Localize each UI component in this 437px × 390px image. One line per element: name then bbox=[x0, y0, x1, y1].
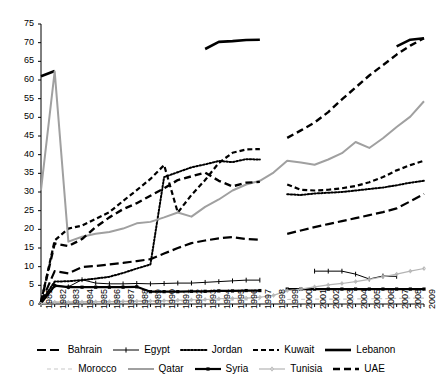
legend-item-egypt[interactable]: Egypt bbox=[112, 345, 170, 355]
legend-item-jordan[interactable]: Jordan bbox=[180, 345, 243, 355]
legend-key-tunisia bbox=[258, 364, 286, 374]
x-tick-label: 1992 bbox=[195, 289, 204, 309]
x-tick-label: 1994 bbox=[223, 289, 232, 309]
legend-item-tunisia[interactable]: Tunisia bbox=[258, 364, 322, 374]
legend-item-kuwait[interactable]: Kuwait bbox=[252, 345, 314, 355]
legend-key-morocco bbox=[46, 364, 74, 374]
legend-item-label: Jordan bbox=[212, 345, 243, 355]
legend-key-lebanon bbox=[324, 345, 352, 355]
legend-key-kuwait bbox=[252, 345, 280, 355]
x-tick-label: 2007 bbox=[401, 289, 410, 309]
x-tick-label: 1981 bbox=[45, 289, 54, 309]
x-tick-label: 2005 bbox=[373, 289, 382, 309]
legend-item-label: Morocco bbox=[78, 364, 116, 374]
axis-layer bbox=[38, 24, 424, 307]
legend-item-label: Lebanon bbox=[356, 345, 395, 355]
series-line bbox=[205, 40, 260, 49]
x-tick-label: 1991 bbox=[182, 289, 191, 309]
x-tick-label: 1997 bbox=[264, 289, 273, 309]
legend-item-label: Qatar bbox=[159, 364, 184, 374]
legend-key-qatar bbox=[127, 364, 155, 374]
x-tick-label: 1989 bbox=[154, 289, 163, 309]
series-line bbox=[287, 161, 424, 191]
y-tick-label: 35 bbox=[16, 168, 34, 177]
y-tick-label: 15 bbox=[16, 243, 34, 252]
legend-item-lebanon[interactable]: Lebanon bbox=[324, 345, 395, 355]
y-tick-label: 30 bbox=[16, 187, 34, 196]
legend-key-jordan bbox=[180, 345, 208, 355]
y-tick-label: 5 bbox=[16, 280, 34, 289]
y-tick-label: 20 bbox=[16, 224, 34, 233]
y-tick-label: 10 bbox=[16, 262, 34, 271]
x-tick-label: 2001 bbox=[319, 289, 328, 309]
x-tick-label: 2000 bbox=[305, 289, 314, 309]
x-tick-label: 1986 bbox=[113, 289, 122, 309]
legend-item-label: Kuwait bbox=[284, 345, 314, 355]
series-line bbox=[287, 181, 424, 195]
x-tick-label: 1987 bbox=[127, 289, 136, 309]
legend-item-label: Bahrain bbox=[68, 345, 102, 355]
legend-key-egypt bbox=[112, 345, 140, 355]
y-tick-label: 25 bbox=[16, 206, 34, 215]
legend-item-qatar[interactable]: Qatar bbox=[127, 364, 184, 374]
x-tick-label: 1995 bbox=[237, 289, 246, 309]
y-tick-label: 65 bbox=[16, 56, 34, 65]
y-tick-label: 45 bbox=[16, 131, 34, 140]
legend-item-label: Syria bbox=[226, 364, 249, 374]
x-tick-label: 1993 bbox=[209, 289, 218, 309]
chart-legend: BahrainEgyptJordanKuwaitLebanon MoroccoQ… bbox=[0, 340, 431, 378]
y-tick-label: 60 bbox=[16, 75, 34, 84]
x-tick-label: 1998 bbox=[278, 289, 287, 309]
legend-key-uae bbox=[332, 364, 360, 374]
legend-row-2: MoroccoQatarSyriaTunisiaUAE bbox=[0, 359, 431, 378]
x-tick-label: 2008 bbox=[414, 289, 423, 309]
y-tick-label: 70 bbox=[16, 38, 34, 47]
legend-item-label: Tunisia bbox=[290, 364, 322, 374]
x-tick-label: 1985 bbox=[100, 289, 109, 309]
series-marker bbox=[135, 285, 138, 288]
x-tick-label: 2006 bbox=[387, 289, 396, 309]
legend-item-label: UAE bbox=[364, 364, 385, 374]
x-tick-label: 2002 bbox=[332, 289, 341, 309]
legend-row-1: BahrainEgyptJordanKuwaitLebanon bbox=[0, 340, 431, 359]
series-marker bbox=[53, 284, 56, 287]
series-line bbox=[287, 194, 424, 234]
series-lebanon bbox=[41, 38, 424, 76]
legend-item-uae[interactable]: UAE bbox=[332, 364, 385, 374]
legend-item-morocco[interactable]: Morocco bbox=[46, 364, 116, 374]
legend-item-label: Egypt bbox=[144, 345, 170, 355]
x-tick-label: 1990 bbox=[168, 289, 177, 309]
x-tick-label: 2004 bbox=[360, 289, 369, 309]
legend-item-syria[interactable]: Syria bbox=[194, 364, 249, 374]
legend-key-bahrain bbox=[36, 345, 64, 355]
y-tick-label: 75 bbox=[16, 19, 34, 28]
x-tick-label: 1983 bbox=[72, 289, 81, 309]
x-tick-label: 2003 bbox=[346, 289, 355, 309]
series-line bbox=[41, 149, 260, 302]
y-tick-label: 50 bbox=[16, 112, 34, 121]
x-tick-label: 1982 bbox=[59, 289, 68, 309]
legend-key-syria bbox=[194, 364, 222, 374]
x-tick-label: 1999 bbox=[291, 289, 300, 309]
y-tick-label: 55 bbox=[16, 94, 34, 103]
x-tick-label: 1984 bbox=[86, 289, 95, 309]
series-layer bbox=[39, 38, 425, 306]
legend-item-bahrain[interactable]: Bahrain bbox=[36, 345, 102, 355]
x-tick-label: 1988 bbox=[141, 289, 150, 309]
x-tick-label: 1996 bbox=[250, 289, 259, 309]
y-tick-label: 0 bbox=[16, 299, 34, 308]
x-tick-label: 2009 bbox=[428, 289, 437, 309]
legend-key-marker bbox=[206, 367, 209, 370]
series-uae bbox=[41, 38, 424, 302]
series-marker bbox=[204, 290, 207, 293]
series-line bbox=[41, 71, 55, 76]
y-tick-label: 40 bbox=[16, 150, 34, 159]
